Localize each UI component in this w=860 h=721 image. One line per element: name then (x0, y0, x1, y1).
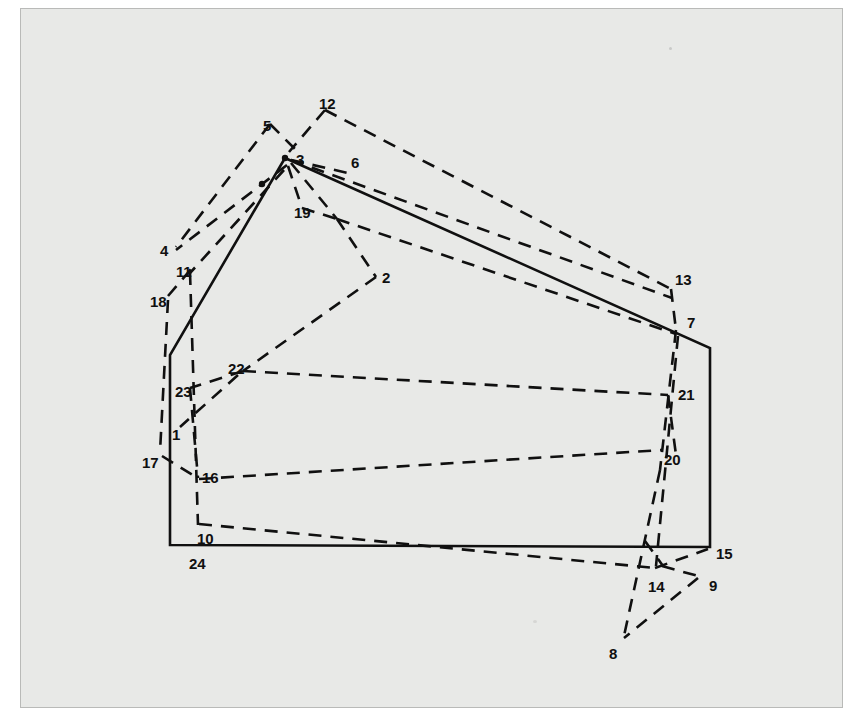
node-label-19: 19 (294, 205, 310, 220)
path-18-17 (160, 300, 168, 452)
path-17-16 (162, 456, 199, 479)
path-5-3 (270, 124, 296, 150)
node-label-17: 17 (142, 455, 158, 470)
node-label-12: 12 (319, 96, 335, 111)
node-label-5: 5 (263, 118, 271, 133)
boundary-vertex-marker (282, 155, 288, 161)
path-13-7 (671, 289, 676, 330)
path-20-8 (624, 470, 660, 636)
path-16-20 (199, 450, 662, 479)
path-3-6-13 (291, 160, 672, 298)
node-label-13: 13 (675, 272, 691, 287)
path-5-4 (176, 124, 270, 247)
network-diagram (0, 0, 860, 721)
node-label-20: 20 (664, 452, 680, 467)
path-3-4 (176, 165, 287, 250)
node-label-3: 3 (296, 152, 304, 167)
node-label-7: 7 (687, 315, 695, 330)
node-label-16: 16 (202, 470, 218, 485)
node-label-10: 10 (197, 531, 213, 546)
path-23-16 (190, 388, 198, 478)
node-label-23: 23 (175, 384, 191, 399)
node-label-8: 8 (609, 646, 617, 661)
node-label-14: 14 (648, 579, 664, 594)
node-label-9: 9 (709, 578, 717, 593)
node-label-24: 24 (189, 556, 205, 571)
node-label-15: 15 (716, 546, 732, 561)
path-14-9 (662, 566, 698, 576)
node-label-21: 21 (678, 387, 694, 402)
boundary-vertex-marker (259, 181, 265, 187)
node-label-6: 6 (351, 155, 359, 170)
path-junction-2 (337, 219, 376, 277)
node-label-11: 11 (176, 264, 191, 279)
node-label-18: 18 (150, 294, 166, 309)
node-label-2: 2 (382, 270, 390, 285)
path-22-21 (243, 371, 668, 395)
node-label-1: 1 (172, 427, 180, 442)
path-20-14-b (645, 541, 663, 566)
node-label-22: 22 (228, 361, 244, 376)
node-label-4: 4 (160, 243, 168, 258)
path-12-3 (289, 110, 325, 152)
path-2-22 (243, 277, 376, 371)
figure-root: 123456789101112131415161718192021222324 (0, 0, 860, 721)
solid-boundary-polygon (170, 158, 710, 547)
